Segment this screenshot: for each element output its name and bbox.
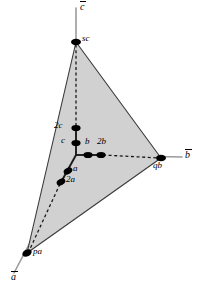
point-label-qb: qb: [153, 161, 162, 170]
point-label-2c: 2c: [54, 121, 63, 130]
point-label-2b: 2b: [97, 137, 106, 146]
dot-2b: [96, 152, 105, 158]
axis-label-c-text: c: [80, 2, 84, 12]
axis-label-b-text: b: [185, 150, 190, 160]
dot-2c: [71, 125, 80, 131]
point-label-2a: 2a: [66, 175, 75, 184]
axis-label-a-text: a: [11, 272, 16, 282]
point-label-c: c: [61, 136, 65, 145]
shaded-intercept-triangle: [27, 42, 161, 253]
axis-label-a: a: [11, 272, 16, 282]
point-label-b: b: [85, 137, 90, 146]
dot-b: [83, 152, 92, 158]
point-label-a: a: [73, 164, 78, 173]
dot-sc: [71, 39, 81, 46]
point-label-sc: sc: [82, 34, 90, 43]
dot-c: [71, 140, 80, 146]
axis-label-b: b: [185, 150, 190, 160]
point-label-pa: pa: [33, 247, 42, 256]
axis-label-c: c: [80, 2, 84, 12]
diagram-canvas: [0, 0, 206, 295]
crystal-plane-diagram: sc 2c c b 2b qb a 2a pa c b a: [0, 0, 206, 295]
